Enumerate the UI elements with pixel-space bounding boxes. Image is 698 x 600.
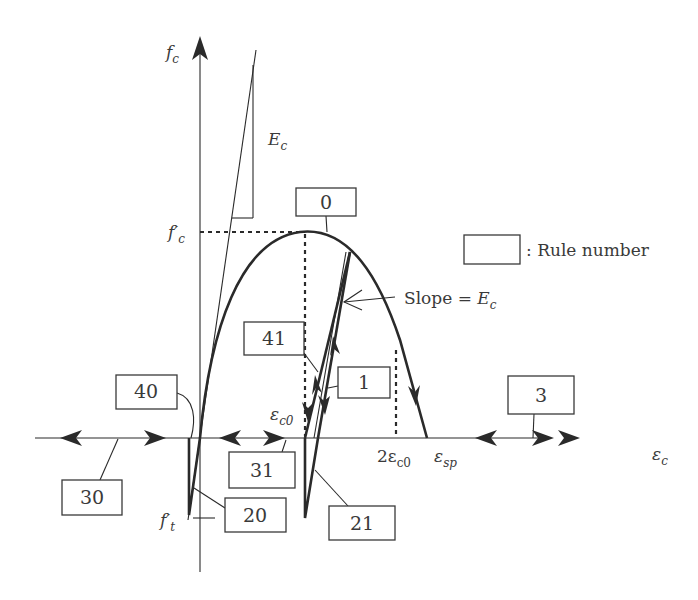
rule-21-leader (315, 470, 348, 506)
rule-box-30: 30 (62, 480, 122, 515)
svg-text:1: 1 (358, 371, 370, 393)
legend: : Rule number (464, 235, 650, 264)
ft-prime-label: f′t (158, 510, 175, 534)
rule-box-20: 20 (225, 498, 286, 532)
legend-text: : Rule number (526, 240, 650, 260)
svg-text:30: 30 (80, 486, 104, 508)
rule-1-leader (328, 386, 338, 388)
svg-text:21: 21 (350, 512, 374, 534)
rule-box-21: 21 (329, 506, 395, 540)
svg-text:3: 3 (535, 384, 547, 406)
ec-label: Ec (267, 129, 287, 153)
fc-prime-label: f′c (166, 222, 185, 246)
y-axis-label: fc (164, 42, 179, 66)
slope-label: Slope = Ec (404, 288, 497, 312)
svg-text:0: 0 (320, 191, 332, 213)
eps-c0-label: εc0 (270, 404, 294, 428)
svg-text:20: 20 (243, 504, 267, 526)
reload-line-left (305, 252, 350, 438)
rule-31-leader (282, 440, 286, 452)
rule-box-3: 3 (508, 376, 574, 414)
rule-box-1: 1 (338, 367, 390, 398)
legend-box (464, 235, 520, 264)
svg-text:31: 31 (250, 459, 274, 481)
tension-curve (189, 438, 200, 515)
rule-box-31: 31 (229, 452, 295, 488)
eps-sp-label: εsp (434, 446, 457, 470)
slope-leader (344, 297, 395, 302)
rule-box-41: 41 (244, 322, 304, 355)
svg-text:41: 41 (262, 327, 286, 349)
rule-box-0: 0 (296, 188, 356, 216)
reload-line-mid (314, 252, 346, 438)
rule-30-leader (100, 439, 118, 480)
rule-40-leader (177, 393, 194, 438)
concrete-rule-diagram: fc εc Ec f′c f′t Slope = Ec εc0 2εc0 εsp (0, 0, 698, 600)
two-eps-c0-label: 2εc0 (377, 446, 411, 470)
rule-21-curve (305, 438, 318, 518)
rule-0-leader (326, 216, 327, 232)
svg-text:40: 40 (134, 380, 158, 402)
rule-3-leader (533, 414, 534, 438)
rule-3-arrow-right (558, 430, 580, 446)
rule-box-40: 40 (116, 375, 177, 409)
x-axis-label: εc (652, 444, 668, 468)
rule-20-leader (194, 488, 225, 508)
